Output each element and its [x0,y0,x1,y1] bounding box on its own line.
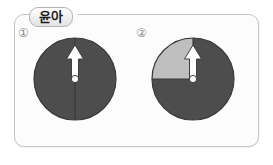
circle-diagram-1 [32,36,118,122]
circle-diagram-2 [150,36,236,122]
circle-2-center-dot [189,75,196,82]
figure-item-2: ② [136,24,238,124]
circle-1-left-half [34,38,75,120]
circle-1-center-dot [71,75,78,82]
figure-number-2: ② [136,26,147,40]
figure-item-1: ① [18,24,120,124]
figure-number-1: ① [18,26,29,40]
student-name-tab: 윤아 [29,7,73,27]
